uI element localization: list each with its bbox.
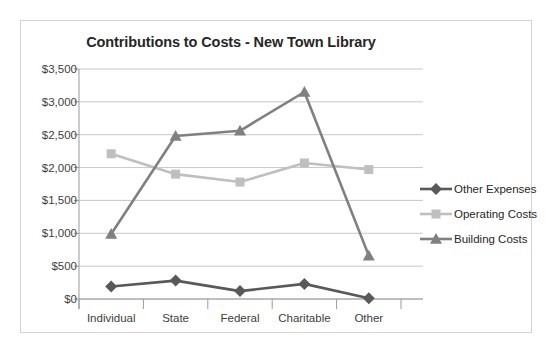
data-point-marker — [363, 250, 375, 261]
data-point-marker — [298, 278, 310, 290]
data-point-marker — [364, 165, 373, 174]
series-building-costs — [105, 86, 375, 260]
y-axis-tick-label: $3,000 — [21, 96, 77, 108]
legend-item-building-costs[interactable]: Building Costs — [419, 226, 537, 251]
data-point-marker — [236, 178, 245, 187]
y-axis-tick-label: $3,500 — [21, 63, 77, 75]
chart-legend: Other ExpensesOperating CostsBuilding Co… — [419, 176, 537, 251]
data-point-marker — [432, 209, 441, 218]
legend-label: Operating Costs — [454, 208, 537, 220]
diamond-marker-icon — [419, 181, 453, 197]
x-axis-tick-label-individual: Individual — [87, 312, 136, 324]
data-point-marker — [300, 158, 309, 167]
series-line — [111, 92, 369, 256]
data-point-marker — [298, 86, 310, 97]
x-axis-tick-label-charitable: Charitable — [278, 312, 330, 324]
legend-item-operating-costs[interactable]: Operating Costs — [419, 201, 537, 226]
series-other-expenses — [105, 275, 375, 305]
x-axis-tick-label-federal: Federal — [221, 312, 260, 324]
y-axis-tick-label: $2,500 — [21, 129, 77, 141]
data-point-marker — [170, 275, 182, 287]
data-point-marker — [234, 285, 246, 297]
y-axis-tick-label: $500 — [21, 260, 77, 272]
data-point-marker — [430, 183, 442, 195]
square-marker-icon — [419, 206, 453, 222]
data-point-marker — [171, 170, 180, 179]
chart-container: Contributions to Costs - New Town Librar… — [20, 20, 532, 333]
legend-label: Building Costs — [454, 233, 528, 245]
y-axis-tick-label: $2,000 — [21, 162, 77, 174]
triangle-marker-icon — [419, 231, 453, 247]
y-axis-tick-label: $1,000 — [21, 227, 77, 239]
legend-item-other-expenses[interactable]: Other Expenses — [419, 176, 537, 201]
x-axis-tick-label-state: State — [162, 312, 189, 324]
data-point-marker — [363, 292, 375, 304]
data-point-marker — [105, 281, 117, 293]
legend-label: Other Expenses — [454, 183, 536, 195]
y-axis-tick-label: $1,500 — [21, 194, 77, 206]
y-axis-tick-label: $0 — [21, 293, 77, 305]
x-axis-tick-label-other: Other — [354, 312, 383, 324]
data-point-marker — [107, 149, 116, 158]
